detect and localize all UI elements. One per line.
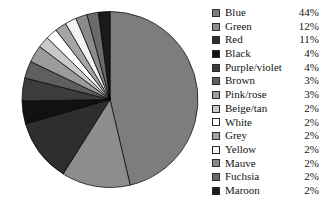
legend-item[interactable]: Blue44% — [212, 6, 319, 20]
pie-slice-group — [22, 12, 198, 188]
legend-swatch-icon — [212, 50, 220, 58]
legend-item-percent: 12% — [295, 20, 319, 34]
pie-chart-svg — [0, 0, 212, 197]
legend-item-percent: 3% — [295, 74, 319, 88]
legend-item[interactable]: Brown3% — [212, 74, 319, 88]
legend-item[interactable]: Beige/tan2% — [212, 102, 319, 116]
legend-item[interactable]: Green12% — [212, 20, 319, 34]
legend-swatch-icon — [212, 77, 220, 85]
legend-item-percent: 11% — [295, 33, 319, 47]
legend-item-label: Fuchsia — [225, 170, 295, 184]
legend-item-label: Pink/rose — [225, 88, 295, 102]
legend-item-percent: 2% — [295, 116, 319, 130]
legend-item[interactable]: Maroon2% — [212, 184, 319, 197]
legend-item[interactable]: White2% — [212, 116, 319, 130]
legend-item-label: Blue — [225, 6, 295, 20]
legend-swatch-icon — [212, 36, 220, 44]
pie-chart-figure: Blue44%Green12%Red11%Black4%Purple/viole… — [0, 0, 319, 197]
legend-item-percent: 44% — [295, 6, 319, 20]
legend-swatch-icon — [212, 132, 220, 140]
legend-item[interactable]: Purple/violet4% — [212, 61, 319, 75]
legend-swatch-icon — [212, 64, 220, 72]
legend-item-label: White — [225, 116, 295, 130]
legend-item-percent: 4% — [295, 47, 319, 61]
legend-item-percent: 4% — [295, 61, 319, 75]
legend-swatch-icon — [212, 118, 220, 126]
legend-swatch-icon — [212, 23, 220, 31]
legend-item-label: Black — [225, 47, 295, 61]
legend-item-percent: 3% — [295, 88, 319, 102]
legend-item[interactable]: Grey2% — [212, 129, 319, 143]
legend-item-percent: 2% — [295, 143, 319, 157]
legend-item-label: Purple/violet — [225, 61, 295, 75]
legend-item-percent: 2% — [295, 184, 319, 197]
legend-swatch-icon — [212, 105, 220, 113]
legend-item-percent: 2% — [295, 129, 319, 143]
legend-swatch-icon — [212, 9, 220, 17]
legend-item-label: Red — [225, 33, 295, 47]
legend-item-label: Green — [225, 20, 295, 34]
legend-item-label: Maroon — [225, 184, 295, 197]
legend-item-percent: 2% — [295, 170, 319, 184]
legend-item-label: Beige/tan — [225, 102, 295, 116]
legend-swatch-icon — [212, 187, 220, 195]
legend-swatch-icon — [212, 91, 220, 99]
legend-swatch-icon — [212, 146, 220, 154]
legend-item[interactable]: Red11% — [212, 33, 319, 47]
legend-item[interactable]: Black4% — [212, 47, 319, 61]
legend-rows: Blue44%Green12%Red11%Black4%Purple/viole… — [212, 6, 319, 197]
legend-item-label: Yellow — [225, 143, 295, 157]
pie-chart-area — [0, 0, 212, 197]
legend-item[interactable]: Mauve2% — [212, 157, 319, 171]
legend-item-label: Mauve — [225, 157, 295, 171]
legend-item-label: Brown — [225, 74, 295, 88]
legend-item[interactable]: Pink/rose3% — [212, 88, 319, 102]
legend-item[interactable]: Yellow2% — [212, 143, 319, 157]
legend-item-percent: 2% — [295, 157, 319, 171]
legend-swatch-icon — [212, 173, 220, 181]
legend-swatch-icon — [212, 159, 220, 167]
legend: Blue44%Green12%Red11%Black4%Purple/viole… — [212, 6, 319, 197]
legend-item-label: Grey — [225, 129, 295, 143]
legend-item[interactable]: Fuchsia2% — [212, 170, 319, 184]
legend-item-percent: 2% — [295, 102, 319, 116]
